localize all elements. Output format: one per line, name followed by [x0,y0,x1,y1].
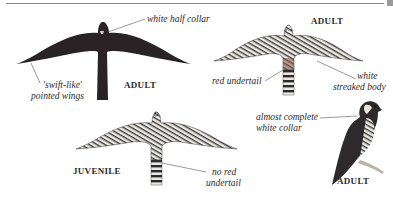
annotation-no-red: no red [212,167,236,177]
annotation-almost-complete: almost complete [256,112,318,122]
age-label-juvenile: JUVENILE [73,166,121,176]
annotation-streaked-body: streaked body [333,82,386,92]
annotation-undertail: undertail [206,178,241,188]
annotation-white: white [357,71,378,81]
adult-perched-drawing [332,101,384,185]
leader-almost-complete-collar [320,116,357,118]
leader-white-streaked-body [317,61,356,79]
leader-red-undertail [265,70,283,81]
age-label-adult-dark: ADULT [124,80,156,90]
leader-no-red-undertail [162,163,206,172]
annotation-white-collar: white collar [256,123,302,133]
age-label-adult-underside: ADULT [311,16,343,26]
leader-white-half-collar [108,19,145,32]
age-label-adult-perched: ADULT [337,176,369,186]
annotation-white-half-collar: white half collar [147,14,210,24]
annotation-red-undertail: red undertail [212,76,262,86]
annotation-pointed-wings: pointed wings [31,91,84,101]
annotation-swift-like: 'swift-like' [43,80,82,90]
leader-swift-like [31,63,40,83]
